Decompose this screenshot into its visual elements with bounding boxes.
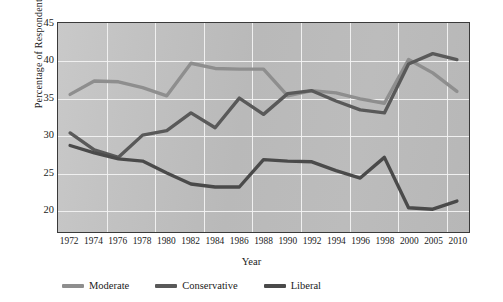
- x-axis-tick-labels: 1972197419761978198019821984198619881990…: [0, 237, 503, 251]
- legend-item-liberal: Liberal: [264, 281, 321, 292]
- y-tick-20: 20: [18, 205, 54, 216]
- y-tick-45: 45: [18, 18, 54, 29]
- x-tick-1974: 1974: [84, 237, 103, 246]
- x-tick-1990: 1990: [278, 237, 297, 246]
- y-tick-25: 25: [18, 168, 54, 179]
- legend-item-conservative: Conservative: [155, 281, 237, 292]
- y-tick-40: 40: [18, 55, 54, 66]
- x-tick-1988: 1988: [254, 237, 273, 246]
- x-tick-1976: 1976: [108, 237, 127, 246]
- x-tick-2005: 2005: [424, 237, 443, 246]
- x-tick-1972: 1972: [60, 237, 79, 246]
- x-tick-2010: 2010: [448, 237, 467, 246]
- x-tick-1992: 1992: [303, 237, 322, 246]
- x-tick-1980: 1980: [157, 237, 176, 246]
- chart-legend: ModerateConservativeLiberal: [0, 278, 503, 294]
- legend-item-moderate: Moderate: [62, 281, 129, 292]
- x-tick-1994: 1994: [327, 237, 346, 246]
- legend-swatch-moderate: [62, 284, 84, 288]
- x-tick-1986: 1986: [230, 237, 249, 246]
- series-line-liberal: [70, 145, 457, 209]
- legend-swatch-liberal: [264, 284, 286, 288]
- y-tick-30: 30: [18, 130, 54, 141]
- legend-label-liberal: Liberal: [291, 281, 321, 292]
- x-axis-title: Year: [0, 256, 503, 267]
- x-tick-1978: 1978: [133, 237, 152, 246]
- x-tick-1998: 1998: [376, 237, 395, 246]
- legend-label-moderate: Moderate: [89, 281, 129, 292]
- legend-swatch-conservative: [155, 284, 177, 288]
- x-tick-2000: 2000: [400, 237, 419, 246]
- line-chart: Percentage of Respondents 454035302520 1…: [0, 0, 503, 302]
- plot-area: [57, 22, 470, 233]
- legend-label-conservative: Conservative: [182, 281, 237, 292]
- series-lines: [58, 23, 469, 232]
- x-tick-1996: 1996: [351, 237, 370, 246]
- x-tick-1984: 1984: [206, 237, 225, 246]
- x-tick-1982: 1982: [181, 237, 200, 246]
- y-tick-35: 35: [18, 93, 54, 104]
